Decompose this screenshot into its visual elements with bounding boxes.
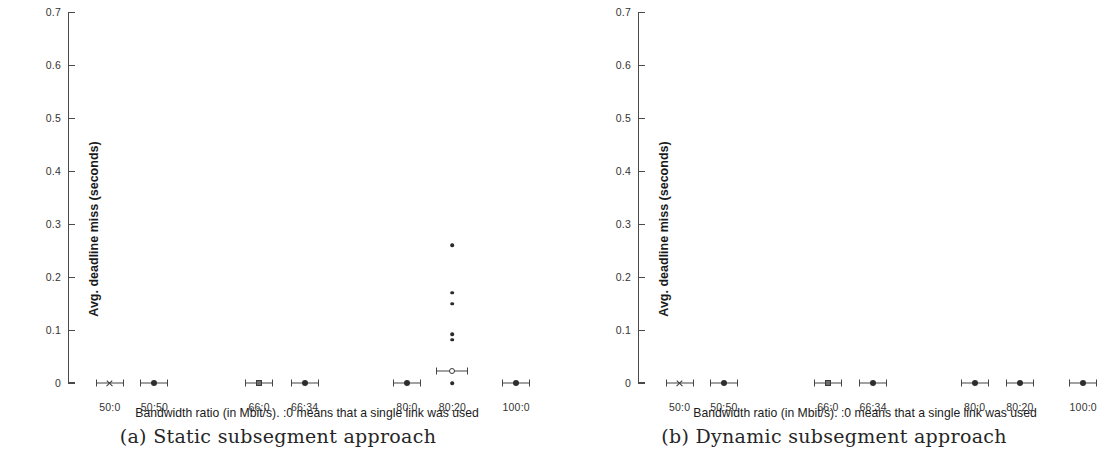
sample-point: [451, 381, 455, 385]
panel-static: Avg. deadline miss (seconds) 00.10.20.30…: [0, 0, 556, 458]
y-axis-tick-label: 0.1: [46, 324, 61, 336]
subcaption-a: (a) Static subsegment approach: [0, 425, 556, 447]
y-axis-tick: [68, 383, 75, 384]
y-axis-tick-label: 0.6: [46, 59, 61, 71]
y-axis-tick-label: 0.1: [616, 324, 631, 336]
marker-filled-circle: [972, 380, 978, 386]
y-axis-tick-label: 0.5: [616, 112, 631, 124]
marker-filled-square: [256, 380, 262, 386]
y-axis-tick-label: 0.4: [46, 165, 61, 177]
sample-point: [451, 243, 455, 247]
data-layer-static: [68, 12, 523, 383]
y-axis-tick-label: 0.2: [616, 271, 631, 283]
data-layer-dynamic: [638, 12, 1090, 383]
y-axis-tick-label: 0: [625, 377, 631, 389]
subcaption-b: (b) Dynamic subsegment approach: [556, 425, 1112, 447]
sample-point: [451, 291, 455, 295]
y-axis-tick-label: 0.4: [616, 165, 631, 177]
y-axis-tick-label: 0.6: [616, 59, 631, 71]
marker-filled-circle: [404, 380, 410, 386]
y-axis-tick-label: 0.3: [616, 218, 631, 230]
panel-dynamic: Avg. deadline miss (seconds) 00.10.20.30…: [556, 0, 1112, 458]
y-axis-tick-label: 0.7: [616, 6, 631, 18]
sample-point: [451, 332, 455, 336]
y-axis-tick-label: 0: [55, 377, 61, 389]
y-axis-tick-label: 0.2: [46, 271, 61, 283]
sample-point: [451, 338, 455, 342]
marker-filled-circle: [1080, 380, 1086, 386]
y-axis-tick: [638, 383, 645, 384]
marker-filled-circle: [721, 380, 727, 386]
marker-filled-square: [825, 380, 831, 386]
marker-cross-icon: [106, 380, 113, 387]
marker-open-circle: [449, 368, 455, 374]
marker-filled-circle: [513, 380, 519, 386]
marker-filled-circle: [302, 380, 308, 386]
marker-filled-circle: [1017, 380, 1023, 386]
plot-area-static: 00.10.20.30.40.50.60.7 50:050:5066:066:3…: [68, 12, 523, 383]
marker-filled-circle: [151, 380, 157, 386]
x-axis-title-a: Bandwidth ratio (in Mbit/s). :0 means th…: [0, 406, 556, 420]
sample-point: [451, 302, 455, 306]
marker-filled-circle: [870, 380, 876, 386]
marker-cross-icon: [676, 380, 683, 387]
y-axis-tick-label: 0.7: [46, 6, 61, 18]
y-axis-tick-label: 0.5: [46, 112, 61, 124]
y-axis-tick-label: 0.3: [46, 218, 61, 230]
figure-container: Avg. deadline miss (seconds) 00.10.20.30…: [0, 0, 1113, 458]
plot-area-dynamic: 00.10.20.30.40.50.60.7 50:050:5066:066:3…: [638, 12, 1090, 383]
x-axis-title-b: Bandwidth ratio (in Mbit/s). :0 means th…: [556, 406, 1112, 420]
